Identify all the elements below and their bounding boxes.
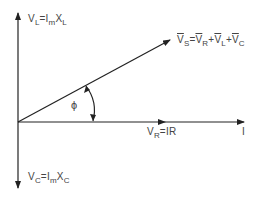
phasor-diagram xyxy=(0,0,261,197)
phase-angle-label: ϕ xyxy=(71,100,77,111)
arc-arrowhead-top xyxy=(84,86,90,93)
vc-label: VC=ImXC xyxy=(28,172,70,182)
vr-label: VR=IR xyxy=(147,127,176,137)
arc-arrowhead-bottom xyxy=(90,114,96,121)
current-label: I xyxy=(242,127,245,137)
vl-label: VL=ImXL xyxy=(28,14,67,24)
vs-equation-label: VS=VR+VL+VC xyxy=(177,35,245,45)
vr-arrowhead xyxy=(158,119,166,125)
